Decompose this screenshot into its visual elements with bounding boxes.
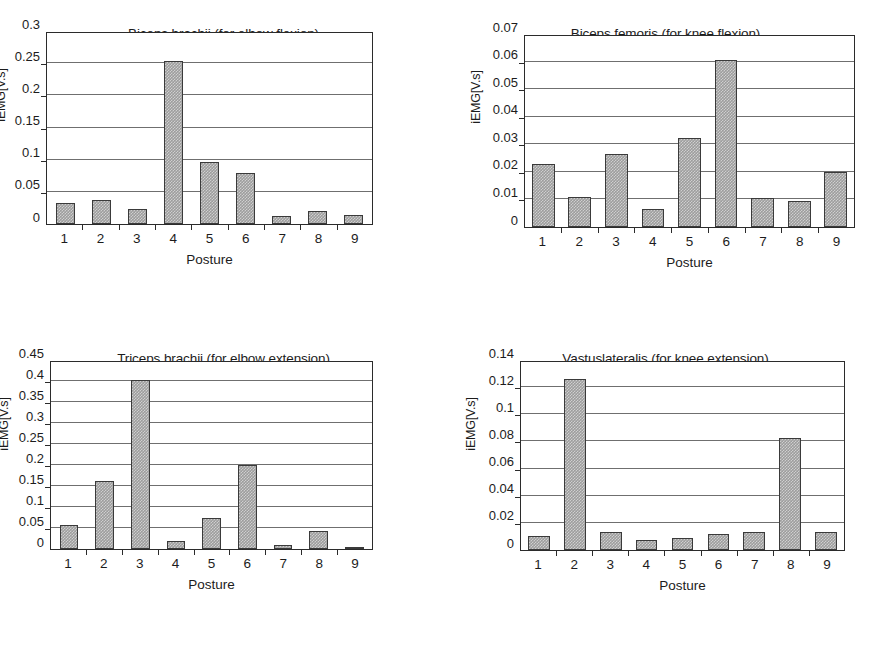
y-tick-label: 0.3: [22, 16, 40, 31]
bar-slot: [598, 36, 635, 227]
y-tick-label: 0.3: [26, 408, 44, 423]
bar: [743, 532, 765, 550]
bar: [532, 164, 555, 227]
x-axis-ticks: 123456789: [524, 234, 855, 252]
y-tick-label: 0.02: [489, 508, 514, 523]
plot-area-wrapper: [50, 361, 373, 550]
x-tick-mark: [809, 551, 810, 556]
bar: [815, 532, 837, 550]
x-tick-label: 2: [97, 231, 105, 246]
bar-slot: [336, 362, 372, 549]
bar-slot: [781, 36, 818, 227]
x-tick-mark: [264, 225, 265, 230]
x-tick-label: 8: [787, 557, 795, 572]
y-tick-mark: [515, 470, 520, 471]
bar-slot: [665, 362, 701, 550]
x-tick-label: 7: [280, 556, 288, 571]
y-tick-label: 0.12: [489, 372, 514, 387]
x-tick-mark: [598, 228, 599, 233]
bar-slot: [736, 362, 772, 550]
bar-slot: [191, 33, 227, 224]
y-axis-ticks: 00.050.10.150.20.250.3: [0, 32, 40, 225]
y-tick-label: 0: [511, 212, 518, 227]
chart-panel-triceps-brachii: Triceps brachii (for elbow extension) iE…: [0, 325, 447, 651]
bar-slot: [818, 36, 855, 227]
bar-slot: [708, 36, 745, 227]
bar-slot: [744, 36, 781, 227]
y-tick-mark: [41, 129, 46, 130]
x-tick-label: 6: [715, 557, 723, 572]
y-tick-label: 0: [507, 535, 514, 550]
x-axis-ticks: 123456789: [50, 556, 373, 574]
y-tick-label: 0.03: [493, 129, 518, 144]
bar: [344, 215, 363, 224]
x-tick-label: 6: [244, 556, 252, 571]
plot-area: [520, 361, 845, 551]
x-tick-label: 1: [534, 557, 542, 572]
x-tick-label: 2: [570, 557, 578, 572]
bar-slot: [229, 362, 265, 549]
x-tick-label: 7: [759, 234, 767, 249]
bar-series: [47, 33, 372, 224]
bar: [672, 538, 694, 550]
y-axis-ticks: 00.010.020.030.040.050.060.07: [447, 35, 518, 228]
bar: [274, 545, 293, 549]
x-tick-label: 9: [833, 234, 841, 249]
x-tick-label: 8: [315, 231, 323, 246]
x-tick-mark: [737, 551, 738, 556]
y-tick-mark: [45, 487, 50, 488]
x-tick-mark: [155, 225, 156, 230]
x-tick-label: 4: [172, 556, 180, 571]
x-tick-mark: [592, 551, 593, 556]
x-tick-label: 1: [539, 234, 547, 249]
x-tick-mark: [301, 550, 302, 555]
y-tick-label: 0.04: [489, 481, 514, 496]
x-tick-label: 4: [649, 234, 657, 249]
chart-panel-biceps-brachii: Biceps brachii (for elbow flexion) iEMG[…: [0, 0, 447, 325]
bar: [200, 162, 219, 224]
x-tick-mark: [628, 551, 629, 556]
bar-slot: [228, 33, 264, 224]
x-axis-label: Posture: [50, 577, 373, 592]
bar: [309, 531, 328, 549]
y-tick-label: 0.35: [19, 387, 44, 402]
y-tick-label: 0.04: [493, 102, 518, 117]
bar-slot: [635, 36, 672, 227]
bar-slot: [119, 33, 155, 224]
x-tick-mark: [300, 225, 301, 230]
y-tick-label: 0.1: [26, 492, 44, 507]
x-tick-mark: [191, 225, 192, 230]
y-tick-label: 0.05: [15, 177, 40, 192]
x-tick-mark: [82, 225, 83, 230]
x-tick-mark: [818, 228, 819, 233]
bar-slot: [300, 33, 336, 224]
bar: [164, 61, 183, 224]
bar: [272, 216, 291, 224]
y-tick-label: 0.4: [26, 366, 44, 381]
bar: [751, 198, 774, 228]
y-tick-label: 0: [33, 209, 40, 224]
y-tick-label: 0.02: [493, 157, 518, 172]
bar: [345, 547, 364, 549]
y-tick-label: 0.15: [15, 113, 40, 128]
y-tick-mark: [45, 529, 50, 530]
y-tick-mark: [515, 388, 520, 389]
x-tick-label: 9: [823, 557, 831, 572]
bar: [238, 465, 257, 549]
bar-slot: [700, 362, 736, 550]
bar-slot: [51, 362, 87, 549]
bar-series: [521, 362, 844, 550]
bar: [60, 525, 79, 549]
bar: [564, 379, 586, 550]
bar: [131, 380, 150, 549]
y-tick-label: 0.07: [493, 19, 518, 34]
x-tick-label: 3: [133, 231, 141, 246]
bar: [600, 532, 622, 550]
x-tick-label: 5: [206, 231, 214, 246]
bar-slot: [47, 33, 83, 224]
y-tick-label: 0.08: [489, 426, 514, 441]
x-axis-label: Posture: [520, 578, 845, 593]
bar: [308, 211, 327, 224]
y-tick-label: 0.01: [493, 184, 518, 199]
y-tick-label: 0.06: [489, 454, 514, 469]
